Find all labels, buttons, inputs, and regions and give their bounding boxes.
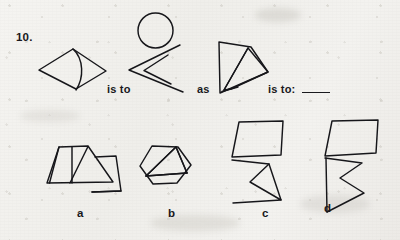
- worksheet-page: 10. is to as is to: a b c d: [0, 0, 400, 240]
- option-c-figure: [232, 121, 283, 203]
- term-b-inner-chevron: [144, 55, 171, 84]
- connector-as: as: [197, 84, 210, 95]
- question-number: 10.: [16, 32, 33, 44]
- figure-drawing-layer: [0, 0, 400, 240]
- figure-term-c: [219, 42, 268, 93]
- option-b-triangle-base: [146, 173, 187, 176]
- connector-is-to-2: is to:: [268, 84, 295, 95]
- option-a-divider-left: [50, 147, 60, 183]
- option-a-zigzag-base: [92, 191, 121, 192]
- term-a-arc: [73, 49, 82, 90]
- option-a-label[interactable]: a: [77, 208, 84, 220]
- option-b-label[interactable]: b: [168, 208, 175, 220]
- term-c-inner-quad: [224, 48, 268, 90]
- option-d-parallelogram: [325, 120, 378, 156]
- figure-term-b: [129, 13, 183, 92]
- option-a-trapezoid: [47, 146, 113, 183]
- option-d-figure: [325, 120, 378, 212]
- connector-is-to-1: is to: [107, 84, 131, 95]
- option-d-label[interactable]: d: [324, 203, 331, 215]
- term-b-circle: [138, 13, 173, 48]
- option-b-triangle-edge-left: [146, 147, 176, 176]
- term-b-outer-chevron: [129, 45, 183, 92]
- answer-blank[interactable]: [302, 92, 330, 93]
- figure-term-a: [39, 49, 106, 90]
- option-c-label[interactable]: c: [262, 208, 269, 220]
- term-c-inner-diagonal: [224, 48, 248, 90]
- option-c-parallelogram: [232, 121, 283, 157]
- option-c-zigzag: [232, 160, 281, 203]
- term-a-rhombus: [39, 49, 106, 89]
- option-a-figure: [47, 146, 121, 192]
- option-a-zigzag: [92, 156, 121, 192]
- option-b-figure: [140, 146, 191, 184]
